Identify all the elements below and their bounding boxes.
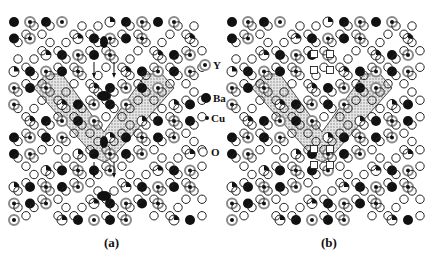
y-atom-core	[12, 218, 16, 222]
y-atom-core	[12, 86, 16, 90]
o-atom	[174, 154, 182, 162]
o-atom	[416, 146, 424, 154]
vacancy-marker	[311, 162, 318, 169]
vacancy-marker	[311, 146, 318, 153]
y-atom-core	[262, 70, 266, 74]
o-atom	[78, 22, 86, 30]
o-atom	[408, 137, 416, 145]
y-atom-core	[278, 20, 282, 24]
o-atom	[86, 179, 94, 187]
mixed-atom-fill	[126, 182, 131, 187]
legend-label-cu: Cu	[211, 112, 225, 124]
mixed-atom-fill	[62, 215, 67, 220]
ba-atom-icon	[201, 93, 211, 103]
o-atom	[182, 195, 190, 203]
mixed-atom-fill	[126, 67, 131, 72]
o-atom	[264, 38, 272, 46]
mixed-atom-fill	[232, 182, 237, 187]
y-atom-core	[28, 20, 32, 24]
y-atom-core	[76, 53, 80, 57]
y-atom-core	[108, 37, 112, 41]
mixed-atom-fill	[408, 34, 413, 39]
y-atom-core	[406, 70, 410, 74]
panel-a	[9, 17, 206, 225]
mixed-atom-fill	[408, 149, 413, 154]
mixed-atom-fill	[232, 67, 237, 72]
o-atom	[126, 55, 134, 63]
y-atom-core	[310, 119, 314, 123]
mixed-atom-fill	[392, 100, 397, 105]
ba-atom	[403, 215, 413, 225]
o-atom	[46, 38, 54, 46]
o-atom	[166, 30, 174, 38]
o-atom	[174, 203, 182, 211]
o-atom	[94, 71, 102, 79]
o-atom	[110, 187, 118, 195]
o-atom	[376, 154, 384, 162]
y-atom-core	[156, 185, 160, 189]
y-atom-core	[230, 218, 234, 222]
y-atom-core	[172, 20, 176, 24]
legend-item-o: O	[211, 146, 220, 158]
o-atom	[240, 212, 248, 220]
y-atom-core	[246, 20, 250, 24]
y-atom-core	[374, 86, 378, 90]
y-atom-core	[140, 20, 144, 24]
vacancy-marker	[327, 146, 334, 153]
legend-item-ba: Ba	[201, 92, 226, 104]
o-atom	[190, 88, 198, 96]
vacancy-marker	[327, 51, 334, 58]
elongated-ba-atom	[97, 91, 111, 101]
o-atom	[38, 146, 46, 154]
o-atom	[62, 154, 70, 162]
o-atom	[54, 195, 62, 203]
o-atom	[416, 162, 424, 170]
y-atom-core	[374, 185, 378, 189]
o-atom	[320, 113, 328, 121]
o-atom	[78, 203, 86, 211]
o-atom	[30, 104, 38, 112]
o-atom	[408, 88, 416, 96]
mixed-atom-fill	[312, 83, 317, 88]
o-atom	[134, 47, 142, 55]
o-atom	[344, 55, 352, 63]
mixed-atom-fill	[46, 166, 51, 171]
o-atom	[376, 104, 384, 112]
o-atom	[416, 63, 424, 71]
o-atom	[384, 30, 392, 38]
y-atom-core	[230, 86, 234, 90]
legend-label-o: O	[211, 146, 220, 158]
mixed-atom-fill	[46, 50, 51, 55]
o-atom	[416, 212, 424, 220]
o-atom	[368, 146, 376, 154]
vacancy-marker	[311, 51, 318, 58]
mixed-atom-fill	[78, 34, 83, 39]
mixed-atom-fill	[190, 34, 195, 39]
o-atom	[296, 203, 304, 211]
mixed-atom-fill	[376, 166, 381, 171]
y-atom-core	[278, 136, 282, 140]
y-atom-core	[12, 103, 16, 107]
o-atom-icon	[199, 148, 207, 156]
legend-label-ba: Ba	[213, 92, 226, 104]
o-atom	[304, 179, 312, 187]
o-atom	[150, 146, 158, 154]
arrow-head	[92, 73, 96, 78]
o-atom	[62, 203, 70, 211]
mixed-atom-fill	[94, 199, 99, 204]
mixed-atom-fill	[158, 166, 163, 171]
o-atom	[150, 212, 158, 220]
mixed-atom-fill	[296, 34, 301, 39]
o-atom	[312, 187, 320, 195]
o-atom	[30, 55, 38, 63]
o-atom	[408, 22, 416, 30]
mixed-atom-fill	[344, 67, 349, 72]
o-atom	[102, 63, 110, 71]
y-atom-core	[230, 202, 234, 206]
mixed-atom-fill	[78, 149, 83, 154]
y-atom-core	[60, 20, 64, 24]
mixed-atom-fill	[158, 50, 163, 55]
legend: Y Ba Cu O	[199, 59, 227, 158]
o-atom	[198, 113, 206, 121]
o-atom	[296, 22, 304, 30]
